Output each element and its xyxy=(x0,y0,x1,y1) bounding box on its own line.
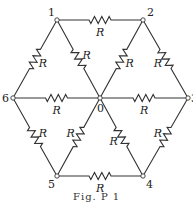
resistor-label: R xyxy=(81,49,90,62)
node-label-0: 0 xyxy=(97,102,104,115)
resistor-label: R xyxy=(139,104,148,117)
resistor-label: R xyxy=(109,135,118,148)
resistor-label: R xyxy=(95,26,104,39)
resistor-network-diagram: RRRRRRRRRRRR0123456 xyxy=(0,0,193,204)
resistor-label: R xyxy=(153,127,162,140)
node-4 xyxy=(141,174,145,178)
node-label-2: 2 xyxy=(147,6,154,19)
resistor-3-4 xyxy=(143,98,188,176)
node-label-1: 1 xyxy=(48,6,55,19)
resistor-2-3 xyxy=(143,20,188,98)
node-label-3: 3 xyxy=(191,92,193,105)
node-1 xyxy=(55,18,59,22)
resistor-label: R xyxy=(38,57,47,70)
node-5 xyxy=(55,174,59,178)
resistor-label: R xyxy=(38,127,47,140)
resistor-label: R xyxy=(124,57,133,70)
resistor-4-5 xyxy=(57,173,143,180)
resistor-label: R xyxy=(153,57,162,70)
resistor-0-6 xyxy=(13,95,100,102)
resistor-0-5 xyxy=(57,98,100,176)
resistor-6-1 xyxy=(13,20,57,98)
node-label-5: 5 xyxy=(48,178,55,191)
resistor-0-4 xyxy=(100,98,143,176)
node-2 xyxy=(141,18,145,22)
resistor-0-1 xyxy=(57,20,100,98)
resistor-label: R xyxy=(66,127,75,140)
resistor-1-2 xyxy=(57,17,143,24)
node-label-4: 4 xyxy=(146,178,153,191)
node-6 xyxy=(11,96,15,100)
circuit-figure: RRRRRRRRRRRR0123456 Fig. P 1 xyxy=(0,0,193,204)
node-0 xyxy=(98,96,102,100)
resistor-0-2 xyxy=(100,20,143,98)
node-3 xyxy=(186,96,190,100)
resistor-label: R xyxy=(52,104,61,117)
resistor-5-6 xyxy=(13,98,57,176)
resistor-0-3 xyxy=(100,95,188,102)
resistor-label: R xyxy=(95,182,104,195)
node-label-6: 6 xyxy=(2,92,9,105)
